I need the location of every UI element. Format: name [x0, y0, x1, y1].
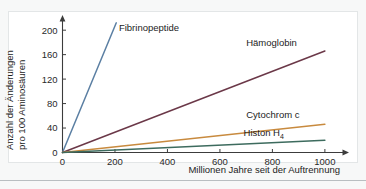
figure-container: Anzahl der Änderungen pro 100 Aminosäure… [0, 0, 366, 189]
y-axis-title-line2: pro 100 Aminosäuren [16, 60, 27, 150]
x-tick-label-400: 400 [160, 156, 176, 167]
series-label-histon-h4: Histon H4 [244, 127, 284, 139]
series-label-subscript: 4 [280, 133, 284, 140]
y-tick-label-160: 160 [42, 49, 58, 60]
y-tick-label-200: 200 [42, 25, 58, 36]
x-tick-label-200: 200 [107, 156, 123, 167]
series-label-cytochrom-c: Cytochrom c [246, 109, 300, 120]
series-label-h-moglobin: Hämoglobin [246, 37, 297, 48]
x-axis-arrow-icon [343, 150, 350, 156]
x-axis-title: Millionen Jahre seit der Auftrennung [188, 164, 340, 175]
series-line-histon-h4 [63, 140, 325, 152]
series-line-h-moglobin [63, 51, 325, 153]
series-labels-group: FibrinopeptideHämoglobinCytochrom cHisto… [119, 22, 300, 140]
y-tick-label-0: 0 [52, 147, 57, 158]
y-tick-label-80: 80 [47, 98, 58, 109]
series-line-fibrinopeptide [63, 23, 117, 153]
y-axis-arrow-icon [60, 15, 66, 22]
series-line-cytochrom-c [63, 124, 325, 152]
line-chart: Anzahl der Änderungen pro 100 Aminosäure… [0, 0, 366, 189]
y-axis-title-line1: Anzahl der Änderungen [4, 50, 15, 150]
x-tick-label-0: 0 [60, 156, 65, 167]
y-tick-label-40: 40 [47, 122, 58, 133]
y-tick-label-120: 120 [42, 74, 58, 85]
series-label-fibrinopeptide: Fibrinopeptide [119, 22, 179, 33]
